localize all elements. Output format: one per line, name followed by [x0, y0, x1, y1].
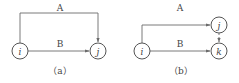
edge-label-B: B [57, 39, 64, 49]
caption-a: （a） [48, 66, 71, 76]
edge-label-A: A [176, 3, 184, 13]
panel-a: A B i j （a） [12, 3, 106, 76]
edge-label-B: B [177, 39, 184, 49]
edge-label-A: A [56, 3, 64, 13]
network-diagram: A B i j （a） A B i j k （b） [0, 0, 239, 83]
node-label-i: i [19, 47, 22, 57]
panel-b: A B i j k （b） [134, 3, 227, 76]
node-label-i: i [141, 47, 144, 57]
node-label-k: k [216, 47, 221, 57]
caption-b: （b） [169, 66, 193, 76]
